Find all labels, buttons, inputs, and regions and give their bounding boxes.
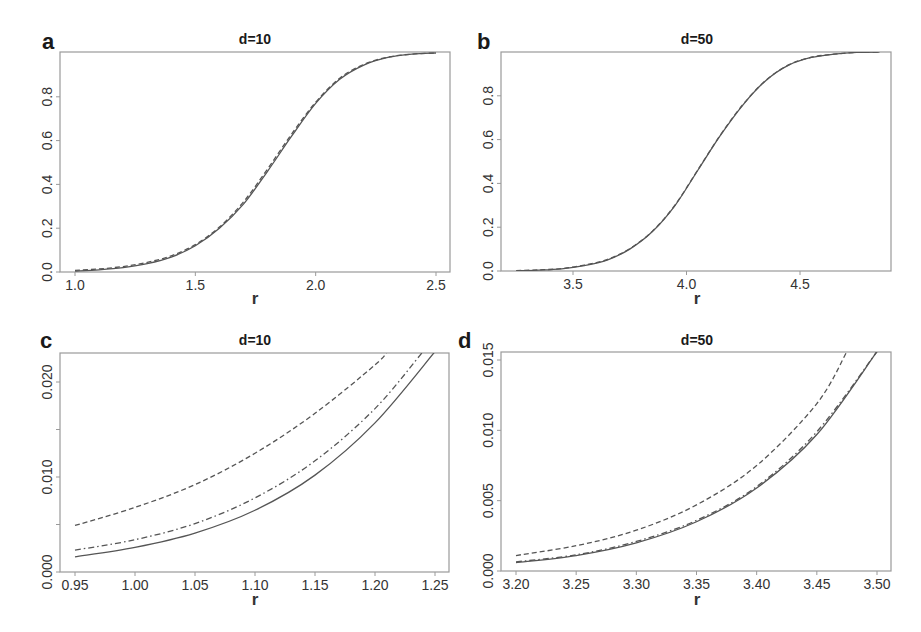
y-tick-label: 0.010: [39, 459, 55, 494]
x-tick-label: 4.0: [677, 276, 697, 292]
x-tick-label: 3.5: [563, 276, 583, 292]
x-tick-label: 0.95: [61, 577, 88, 593]
panel-title: d=10: [239, 332, 272, 348]
curve-dashdot: [516, 352, 877, 562]
x-tick-label: 3.45: [803, 576, 830, 592]
figure-canvas: a d=10 r 1.01.52.02.50.00.20.40.60.8 b d…: [0, 0, 921, 632]
curve-solid: [75, 352, 435, 557]
x-tick-label: 3.35: [683, 576, 710, 592]
y-tick-label: 0.020: [39, 364, 55, 399]
panel-title: d=50: [681, 332, 714, 348]
curve-dashdot: [75, 352, 423, 551]
x-tick-label: 1.00: [121, 577, 148, 593]
panel-letter: b: [477, 29, 490, 54]
panel-a: a d=10 r 1.01.52.02.50.00.20.40.60.8: [39, 29, 450, 308]
plot-frame: [60, 52, 450, 272]
x-tick-label: 3.20: [502, 576, 529, 592]
x-tick-label: 1.20: [361, 577, 388, 593]
panel-letter: d: [458, 328, 471, 353]
x-tick-label: 1.5: [186, 277, 206, 293]
x-tick-label: 2.0: [306, 277, 326, 293]
y-tick-label: 0.4: [480, 173, 496, 193]
curve-dashed: [75, 352, 387, 526]
panel-b: b d=50 r 3.54.04.50.00.20.40.60.8: [477, 29, 891, 308]
x-axis-label: r: [252, 289, 259, 308]
plot-frame: [60, 353, 449, 572]
x-tick-label: 1.25: [421, 577, 448, 593]
panel-title: d=10: [239, 31, 272, 47]
y-tick-label: 0.015: [480, 342, 496, 377]
curve-dashed: [75, 53, 436, 270]
y-tick-label: 0.4: [39, 174, 55, 194]
panel-title: d=50: [681, 31, 714, 47]
y-tick-label: 0.010: [480, 413, 496, 448]
y-tick-label: 0.0: [39, 262, 55, 282]
x-tick-label: 1.15: [301, 577, 328, 593]
y-tick-label: 0.005: [480, 483, 496, 518]
x-tick-label: 3.25: [563, 576, 590, 592]
plot-frame: [501, 352, 891, 571]
panel-letter: c: [40, 328, 52, 353]
x-tick-label: 1.0: [65, 277, 85, 293]
x-tick-label: 4.5: [790, 276, 810, 292]
y-tick-label: 0.2: [480, 217, 496, 237]
x-tick-label: 3.50: [863, 576, 890, 592]
x-tick-label: 1.05: [181, 577, 208, 593]
x-tick-label: 3.30: [623, 576, 650, 592]
y-tick-label: 0.0: [480, 261, 496, 281]
panel-d: d d=50 r 3.203.253.303.353.403.453.500.0…: [458, 328, 891, 609]
x-tick-label: 2.5: [426, 277, 446, 293]
curve-solid: [516, 352, 877, 563]
y-tick-label: 0.2: [39, 218, 55, 238]
curve-dashed: [516, 352, 847, 556]
x-tick-label: 3.40: [743, 576, 770, 592]
x-axis-label: r: [694, 590, 701, 609]
curve-solid: [516, 52, 879, 271]
curve-solid: [75, 53, 436, 271]
plot-frame: [501, 52, 891, 271]
y-tick-label: 0.6: [480, 130, 496, 150]
y-tick-label: 0.8: [480, 86, 496, 106]
panel-c: c d=10 r 0.951.001.051.101.151.201.250.0…: [39, 328, 449, 609]
y-tick-label: 0.6: [39, 131, 55, 151]
y-tick-label: 0.000: [480, 553, 496, 588]
panel-letter: a: [42, 29, 55, 54]
x-tick-label: 1.10: [241, 577, 268, 593]
y-tick-label: 0.8: [39, 87, 55, 107]
curve-dashed: [516, 52, 879, 271]
y-tick-label: 0.000: [39, 554, 55, 589]
